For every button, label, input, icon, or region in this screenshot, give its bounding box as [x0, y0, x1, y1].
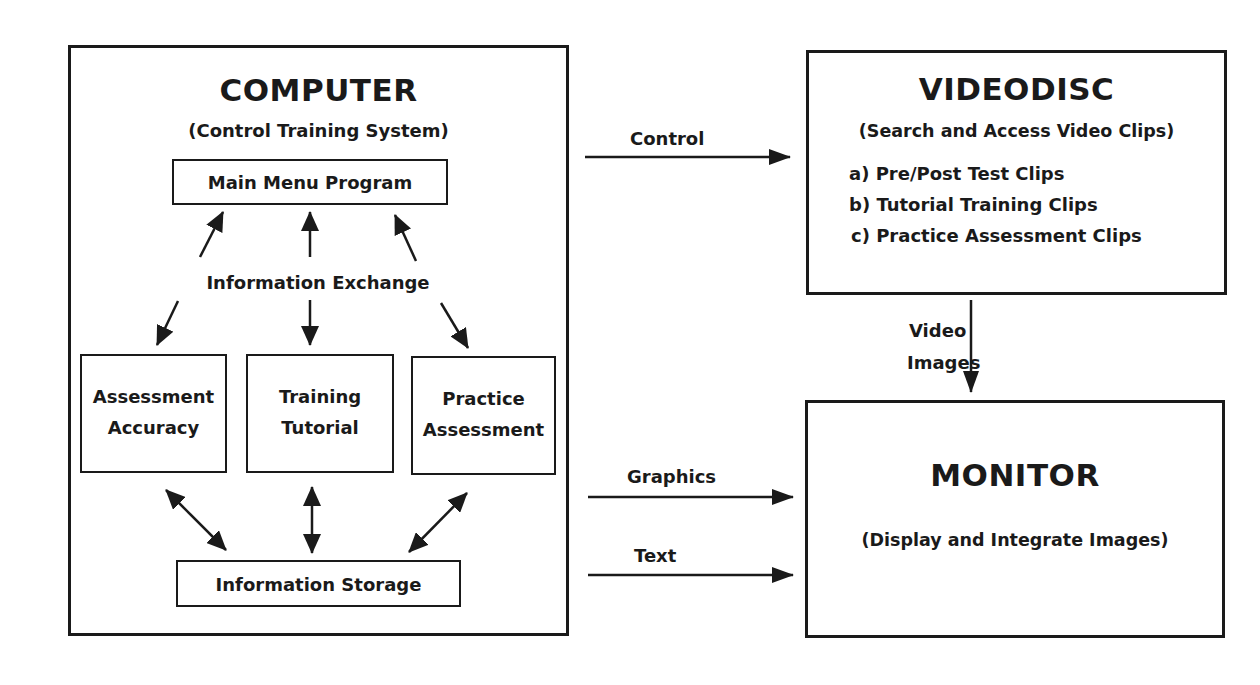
arrow-storage-right — [409, 493, 467, 552]
arrow-exchange-down-left — [157, 301, 178, 345]
arrow-exchange-up-right — [395, 215, 416, 261]
arrow-exchange-up-left — [200, 212, 223, 257]
arrows-layer — [0, 0, 1260, 685]
arrow-exchange-down-right — [441, 303, 468, 348]
arrow-storage-left — [166, 490, 226, 550]
